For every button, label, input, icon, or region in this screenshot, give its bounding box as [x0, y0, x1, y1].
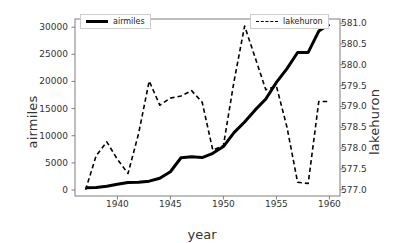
chart-figure: airmiles lakehuron year 0500010000150002…: [0, 0, 404, 243]
legend-line-dashed-icon: [256, 21, 278, 22]
legend-lakehuron[interactable]: lakehuron: [250, 14, 329, 29]
series-line-lakehuron: [86, 26, 330, 190]
legend-airmiles-label: airmiles: [113, 17, 145, 26]
legend-line-solid-icon: [86, 20, 108, 23]
legend-airmiles[interactable]: airmiles: [80, 14, 151, 29]
plot-area: [0, 0, 404, 243]
plot-frame: [75, 19, 340, 196]
legend-lakehuron-label: lakehuron: [283, 17, 323, 26]
series-line-airmiles: [86, 24, 330, 187]
